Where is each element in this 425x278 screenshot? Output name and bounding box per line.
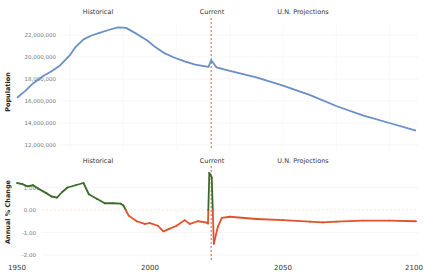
bottom-historical-label: Historical	[83, 157, 114, 165]
y-tick-label: 12,000,000	[25, 142, 57, 148]
top-grid	[60, 22, 418, 150]
y-tick-label: 20,000,000	[25, 54, 57, 60]
x-tick-2050: 2050	[274, 264, 292, 272]
y-tick-label: 16,000,000	[25, 98, 57, 104]
x-tick-2100: 2100	[405, 264, 423, 272]
bottom-current-label: Current	[200, 157, 225, 165]
y-tick-label: -2.00	[22, 252, 37, 258]
top-y-axis-label: Population	[4, 72, 12, 112]
y-tick-label: 0.00	[24, 207, 37, 213]
annual-change-line	[17, 173, 416, 244]
population-chart: 12,000,00014,000,00016,000,00018,000,000…	[0, 0, 425, 278]
x-tick-1950: 1950	[8, 264, 26, 272]
bottom-projections-label: U.N. Projections	[277, 157, 329, 165]
bottom-y-ticks: -2.00-1.000.001.00	[22, 185, 37, 259]
top-current-label: Current	[200, 8, 225, 16]
top-projections-label: U.N. Projections	[277, 8, 329, 16]
top-y-ticks: 12,000,00014,000,00016,000,00018,000,000…	[25, 32, 57, 148]
y-tick-label: -1.00	[22, 230, 37, 236]
y-tick-label: 22,000,000	[25, 32, 57, 38]
x-tick-2000: 2000	[141, 264, 159, 272]
top-historical-label: Historical	[83, 8, 114, 16]
y-tick-label: 14,000,000	[25, 120, 57, 126]
bottom-y-axis-label: Annual % Change	[4, 179, 12, 244]
chart-canvas: 12,000,00014,000,00016,000,00018,000,000…	[0, 0, 425, 278]
